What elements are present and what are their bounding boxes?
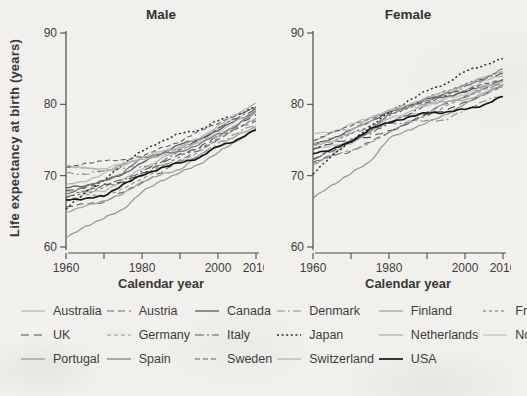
y-tick-label: 90 <box>44 26 58 40</box>
legend-item-australia: Australia <box>20 303 102 319</box>
legend-label: Canada <box>227 304 271 318</box>
legend-label: Sweden <box>227 352 272 366</box>
legend-label: UK <box>53 328 70 342</box>
series-line-austria <box>66 121 256 207</box>
legend-label: Japan <box>309 328 343 342</box>
male-panel-title: Male <box>42 7 280 25</box>
legend-swatch-portugal-line <box>20 354 46 364</box>
female-chart: 607080901960198020002010 <box>273 25 511 275</box>
legend-swatch-norway-line <box>482 330 508 340</box>
legend-swatch-netherlands-line <box>378 330 404 340</box>
legend-swatch-sweden-line <box>194 354 220 364</box>
charts-row: Life expectancy at birth (years) Male 60… <box>0 5 527 294</box>
y-axis-label: Life expectancy at birth (years) <box>7 39 22 237</box>
legend-label: Spain <box>139 352 171 366</box>
legend-label: Portugal <box>53 352 100 366</box>
legend-item-uk: UK <box>20 327 102 343</box>
legend-swatch-canada-line <box>194 306 220 316</box>
legend-swatch-usa-line <box>378 354 404 364</box>
legend-label: Australia <box>53 304 102 318</box>
male-chart: 607080901960198020002010 <box>26 25 264 275</box>
female-panel: Female 607080901960198020002010 Calendar… <box>273 5 511 294</box>
y-tick-label: 80 <box>44 97 58 111</box>
legend-item-japan: Japan <box>276 327 374 343</box>
x-tick-label: 1980 <box>129 261 156 275</box>
legend-item-usa: USA <box>378 351 478 367</box>
legend-label: Austria <box>139 304 178 318</box>
life-expectancy-figure: Life expectancy at birth (years) Male 60… <box>0 0 527 396</box>
legend-swatch-uk-line <box>20 330 46 340</box>
legend-swatch-japan-line <box>276 330 302 340</box>
legend-swatch-denmark-line <box>276 306 302 316</box>
legend-item-finland: Finland <box>378 303 478 319</box>
legend-item-denmark: Denmark <box>276 303 374 319</box>
y-tick-label: 60 <box>44 240 58 254</box>
legend-item-canada: Canada <box>194 303 272 319</box>
x-tick-label: 1980 <box>376 261 403 275</box>
legend-item-sweden: Sweden <box>194 351 272 367</box>
legend-label: France <box>515 304 527 318</box>
legend-item-norway: Norway <box>482 327 527 343</box>
legend-item-italy: Italy <box>194 327 272 343</box>
x-tick-label: 2010 <box>243 261 264 275</box>
series-line-spain <box>66 111 256 194</box>
x-tick-label: 2000 <box>452 261 479 275</box>
female-x-axis-label: Calendar year <box>289 276 527 294</box>
legend-label: Norway <box>515 328 527 342</box>
legend-label: Netherlands <box>411 328 478 342</box>
legend: AustraliaAustriaCanadaDenmarkFinlandFran… <box>0 303 527 367</box>
legend-item-austria: Austria <box>106 303 190 319</box>
series-line-canada <box>313 81 503 146</box>
legend-item-netherlands: Netherlands <box>378 327 478 343</box>
legend-item-portugal: Portugal <box>20 351 102 367</box>
series-line-canada <box>66 113 256 188</box>
legend-label: Finland <box>411 304 452 318</box>
legend-label: Denmark <box>309 304 360 318</box>
series-line-australia <box>66 108 256 192</box>
x-tick-label: 2000 <box>205 261 232 275</box>
y-tick-label: 70 <box>291 169 305 183</box>
legend-label: Italy <box>227 328 250 342</box>
legend-label: USA <box>411 352 437 366</box>
y-tick-label: 90 <box>291 26 305 40</box>
female-panel-title: Female <box>289 7 527 25</box>
legend-swatch-finland-line <box>378 306 404 316</box>
male-x-axis-label: Calendar year <box>42 276 280 294</box>
legend-swatch-switzerland-line <box>276 354 302 364</box>
legend-item-france: France <box>482 303 527 319</box>
legend-swatch-austria-line <box>106 306 132 316</box>
legend-swatch-italy-line <box>194 330 220 340</box>
y-tick-label: 60 <box>291 240 305 254</box>
y-tick-label: 70 <box>44 169 58 183</box>
legend-swatch-france-line <box>482 306 508 316</box>
x-tick-label: 2010 <box>490 261 511 275</box>
legend-item-spain: Spain <box>106 351 190 367</box>
legend-item-germany: Germany <box>106 327 190 343</box>
legend-swatch-germany-line <box>106 330 132 340</box>
male-panel: Male 607080901960198020002010 Calendar y… <box>26 5 264 294</box>
legend-label: Germany <box>139 328 190 342</box>
x-tick-label: 1960 <box>300 261 327 275</box>
legend-item-switzerland: Switzerland <box>276 351 374 367</box>
legend-swatch-australia-line <box>20 306 46 316</box>
x-tick-label: 1960 <box>53 261 80 275</box>
legend-swatch-spain-line <box>106 354 132 364</box>
y-tick-label: 80 <box>291 97 305 111</box>
legend-label: Switzerland <box>309 352 374 366</box>
